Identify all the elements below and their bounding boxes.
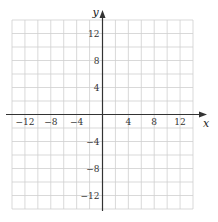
y-tick-label: 12: [88, 29, 99, 39]
x-tick-label: 4: [125, 117, 131, 127]
y-tick-label: 4: [94, 83, 100, 93]
y-tick-label: −4: [86, 137, 100, 147]
x-tick-label: −4: [70, 117, 84, 127]
x-tick-label: −12: [15, 117, 34, 127]
grid-plot: −12−8−448121284−4−8−12xy: [0, 0, 218, 222]
y-tick-label: −8: [86, 164, 100, 174]
y-tick-label: 8: [94, 56, 100, 66]
x-tick-label: −8: [44, 117, 58, 127]
coordinate-plane: −12−8−448121284−4−8−12xy x: [0, 0, 218, 222]
y-axis-arrow-icon: [100, 10, 106, 18]
x-tick-label: 8: [151, 117, 157, 127]
y-axis-label: y: [92, 6, 100, 19]
x-tick-label: 12: [174, 117, 185, 127]
x-axis-label: x: [203, 117, 210, 130]
y-tick-label: −12: [81, 191, 100, 201]
